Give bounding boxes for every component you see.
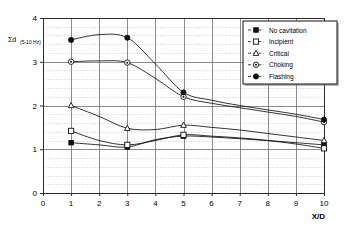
data-point-incipient [125, 142, 130, 147]
data-point-incipient [321, 146, 326, 151]
x-axis-title: X/D [312, 212, 326, 221]
legend-marker-filled-square [254, 28, 259, 33]
y-axis-tick-label: 0 [33, 189, 38, 198]
x-axis-tick-label: 7 [237, 199, 242, 208]
y-axis-tick-label: 2 [33, 102, 38, 111]
legend-label-incipient: Incipient [269, 38, 293, 46]
data-point-choking [125, 60, 130, 65]
x-axis-tick-label: 5 [181, 199, 186, 208]
cavitation-line-chart: 01234012345678910X/DΣd(5-10 Hz)No cavita… [0, 0, 357, 229]
legend-marker-circle-dot [253, 62, 258, 67]
data-point-flashing [125, 35, 130, 40]
y-axis-tick-label: 3 [33, 58, 38, 67]
x-axis-tick-label: 8 [266, 199, 271, 208]
chart-container: 01234012345678910X/DΣd(5-10 Hz)No cavita… [0, 0, 357, 229]
x-axis-tick-label: 1 [69, 199, 74, 208]
y-axis-title-sub: (5-10 Hz) [20, 39, 41, 45]
x-axis-tick-label: 0 [41, 199, 46, 208]
legend-label-critical: Critical [269, 50, 289, 57]
x-axis-tick-label: 9 [294, 199, 299, 208]
y-axis-title: Σd [8, 36, 16, 43]
legend-marker-filled-circle [253, 74, 258, 79]
x-axis-tick-label: 3 [125, 199, 130, 208]
x-axis-tick-label: 4 [153, 199, 158, 208]
y-axis-tick-label: 1 [33, 145, 38, 154]
data-point-incipient [69, 128, 74, 133]
legend-marker-open-square [253, 39, 258, 44]
data-point-no-cavitation [69, 140, 74, 145]
data-point-flashing [321, 117, 326, 122]
data-point-choking [68, 59, 73, 64]
legend-label-no-cavitation: No cavitation [269, 27, 307, 34]
x-axis-tick-label: 6 [209, 199, 214, 208]
legend-label-choking: Choking [269, 61, 293, 69]
x-axis-tick-label: 10 [320, 199, 329, 208]
data-point-flashing [181, 90, 186, 95]
data-point-incipient [181, 132, 186, 137]
data-point-flashing [69, 37, 74, 42]
legend-label-flashing: Flashing [269, 73, 294, 81]
y-axis-tick-label: 4 [33, 14, 38, 23]
x-axis-tick-label: 2 [97, 199, 102, 208]
